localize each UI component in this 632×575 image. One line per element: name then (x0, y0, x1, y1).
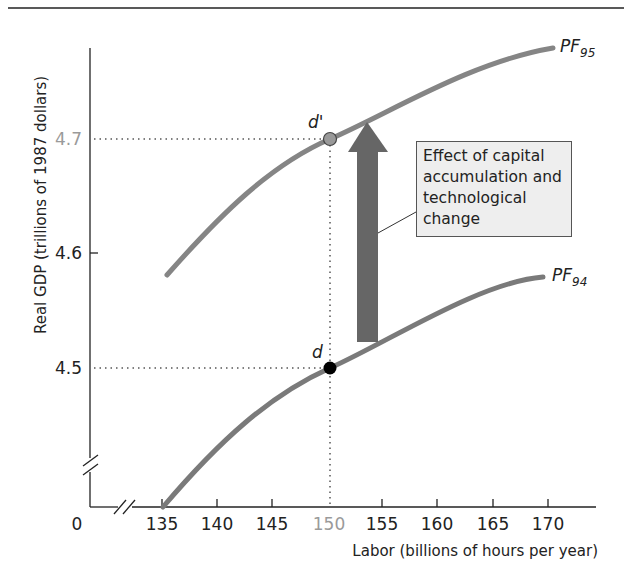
callout-line-3: technological (423, 188, 565, 209)
x-axis-title: Labor (billions of hours per year) (352, 542, 598, 560)
x-origin-label: 0 (72, 514, 83, 534)
y-tick-4.6: 4.6 (55, 243, 82, 263)
callout-line-1: Effect of capital (423, 146, 565, 167)
y-axis-title: Real GDP (trillions of 1987 dollars) (32, 76, 50, 334)
callout-line-2: accumulation and (423, 167, 565, 188)
point-d-prime-label: d' (308, 112, 323, 132)
callout-line-4: change (423, 209, 565, 230)
callout-box: Effect of capital accumulation and techn… (416, 141, 572, 237)
point-d-label: d (312, 342, 323, 362)
y-tick-4.5: 4.5 (55, 358, 82, 378)
point-d-prime (324, 133, 337, 146)
x-tick-165: 165 (477, 514, 509, 534)
x-tick-155: 155 (366, 514, 398, 534)
pf94-curve (163, 277, 543, 507)
pf95-label: PF95 (560, 36, 595, 60)
x-tick-170: 170 (532, 514, 564, 534)
x-tick-150: 150 (313, 514, 345, 534)
x-tick-145: 145 (256, 514, 288, 534)
callout-leader (378, 212, 416, 233)
shift-arrow-icon (348, 122, 388, 342)
pf94-label: PF94 (552, 265, 587, 289)
x-tick-135: 135 (146, 514, 178, 534)
x-tick-160: 160 (421, 514, 453, 534)
y-tick-4.7: 4.7 (55, 129, 82, 149)
production-function-chart: 4.7 4.6 4.5 0 135 140 145 150 155 160 16… (0, 0, 632, 575)
point-d (324, 362, 337, 375)
x-tick-140: 140 (201, 514, 233, 534)
y-axis (83, 48, 98, 507)
